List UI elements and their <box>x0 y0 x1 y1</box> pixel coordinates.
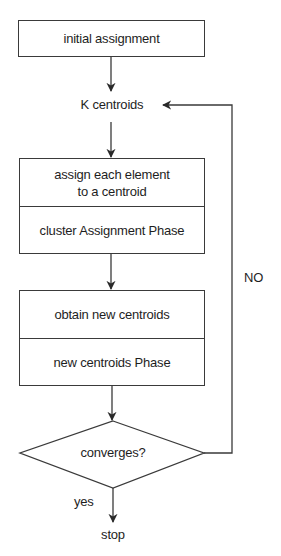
no-edge-label: NO <box>244 270 263 286</box>
assign-step-line2: to a centroid <box>78 183 147 200</box>
initial-assignment-box: initial assignment <box>18 20 205 57</box>
update-phase-box: obtain new centroids new centroids Phase <box>19 290 205 386</box>
assign-step: assign each element to a centroid <box>20 159 204 206</box>
new-centroids-phase-label: new centroids Phase <box>20 338 204 385</box>
connectors <box>0 0 281 556</box>
cluster-assignment-phase-label: cluster Assignment Phase <box>20 206 204 253</box>
initial-assignment-label: initial assignment <box>19 21 204 56</box>
assign-phase-box: assign each element to a centroid cluste… <box>19 158 205 254</box>
stop-label: stop <box>93 527 133 543</box>
converges-label: converges? <box>63 445 163 461</box>
flowchart: initial assignment K centroids assign ea… <box>0 0 281 556</box>
yes-edge-label: yes <box>74 494 94 510</box>
assign-step-line1: assign each element <box>54 166 169 183</box>
obtain-new-centroids-label: obtain new centroids <box>20 291 204 338</box>
k-centroids-label: K centroids <box>73 97 151 113</box>
